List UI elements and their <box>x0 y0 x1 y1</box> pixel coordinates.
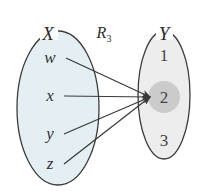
element-2: 2 <box>160 88 169 107</box>
relation-diagram-canvas: X Y R3 w x y z 1 2 3 <box>0 0 206 191</box>
element-w: w <box>44 48 56 67</box>
relation-label: R3 <box>96 24 112 44</box>
element-y: y <box>44 124 54 143</box>
element-3: 3 <box>160 131 169 150</box>
set-x-label: X <box>41 23 55 44</box>
relation-label-base: R <box>96 24 107 41</box>
element-x: x <box>45 86 54 105</box>
relation-label-subscript: 3 <box>106 33 111 44</box>
relation-diagram: X Y R3 w x y z 1 2 3 <box>0 0 206 191</box>
set-x-ellipse <box>17 31 99 185</box>
element-1: 1 <box>160 46 169 65</box>
element-z: z <box>46 154 54 173</box>
